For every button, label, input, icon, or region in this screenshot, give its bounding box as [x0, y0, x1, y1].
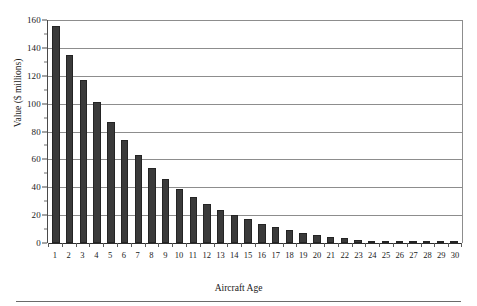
x-tick-mark	[421, 243, 435, 248]
bar-7	[135, 155, 142, 243]
x-tick-mark	[145, 243, 159, 248]
bar-4	[93, 102, 100, 243]
bar-slot	[63, 20, 77, 243]
x-tick-label: 20	[310, 249, 324, 263]
x-tick-mark	[158, 243, 172, 248]
x-axis-tick-labels: 1234567891011121314151617181920212223242…	[47, 249, 463, 263]
bar-slot	[131, 20, 145, 243]
bar-slot	[76, 20, 90, 243]
x-tick-mark	[352, 243, 366, 248]
x-tick-label: 11	[186, 249, 200, 263]
x-tick-label: 9	[158, 249, 172, 263]
bar-slot	[145, 20, 159, 243]
x-tick-label: 14	[227, 249, 241, 263]
bar-slot	[90, 20, 104, 243]
x-tick-label: 17	[269, 249, 283, 263]
x-tick-mark	[172, 243, 186, 248]
bar-slot	[104, 20, 118, 243]
x-tick-label: 6	[117, 249, 131, 263]
bar-9	[162, 179, 169, 243]
bar-slot	[159, 20, 173, 243]
x-tick-label: 29	[434, 249, 448, 263]
x-tick-mark	[200, 243, 214, 248]
bar-slot	[420, 20, 434, 243]
bar-series	[48, 20, 462, 243]
x-tick-mark	[214, 243, 228, 248]
x-tick-mark	[117, 243, 131, 248]
y-tick-label: 80	[32, 127, 41, 137]
bar-slot	[406, 20, 420, 243]
bar-12	[203, 204, 210, 243]
bar-14	[231, 215, 238, 243]
x-tick-mark	[269, 243, 283, 248]
bar-slot	[49, 20, 63, 243]
x-tick-label: 1	[48, 249, 62, 263]
bar-2	[66, 55, 73, 243]
x-tick-mark	[448, 243, 462, 248]
x-tick-mark	[365, 243, 379, 248]
x-tick-mark	[379, 243, 393, 248]
x-tick-label: 30	[448, 249, 462, 263]
x-tick-label: 15	[241, 249, 255, 263]
bar-slot	[392, 20, 406, 243]
bar-18	[286, 230, 293, 243]
bar-slot	[365, 20, 379, 243]
bar-slot	[241, 20, 255, 243]
y-tick-label: 120	[27, 71, 41, 81]
x-tick-mark	[76, 243, 90, 248]
bar-slot	[118, 20, 132, 243]
bar-8	[148, 168, 155, 243]
x-tick-mark	[227, 243, 241, 248]
bar-19	[299, 233, 306, 243]
x-tick-label: 23	[352, 249, 366, 263]
x-tick-mark	[283, 243, 297, 248]
bar-chart-figure: Value ($ millions) 020406080100120140160…	[0, 0, 477, 306]
bar-13	[217, 210, 224, 243]
x-tick-mark	[103, 243, 117, 248]
x-tick-mark	[131, 243, 145, 248]
bar-slot	[214, 20, 228, 243]
bar-20	[313, 235, 320, 243]
x-axis-title: Aircraft Age	[0, 283, 477, 293]
bar-slot	[324, 20, 338, 243]
x-tick-mark	[434, 243, 448, 248]
bar-slot	[173, 20, 187, 243]
bar-10	[176, 189, 183, 243]
bar-6	[121, 140, 128, 243]
x-tick-mark	[324, 243, 338, 248]
x-tick-mark	[62, 243, 76, 248]
bar-slot	[310, 20, 324, 243]
y-tick-label: 20	[32, 210, 41, 220]
x-tick-mark	[241, 243, 255, 248]
bar-slot	[282, 20, 296, 243]
x-tick-label: 4	[89, 249, 103, 263]
x-tick-label: 7	[131, 249, 145, 263]
x-tick-mark	[186, 243, 200, 248]
y-tick-label: 60	[32, 154, 41, 164]
x-tick-label: 28	[421, 249, 435, 263]
y-tick-label: 100	[27, 99, 41, 109]
bar-slot	[434, 20, 448, 243]
bar-5	[107, 122, 114, 243]
x-tick-label: 13	[214, 249, 228, 263]
x-tick-mark	[89, 243, 103, 248]
y-tick-label: 160	[27, 15, 41, 25]
x-tick-mark	[296, 243, 310, 248]
x-tick-label: 2	[62, 249, 76, 263]
bar-1	[52, 26, 59, 243]
x-tick-label: 8	[145, 249, 159, 263]
y-tick-label: 40	[32, 182, 41, 192]
bar-slot	[296, 20, 310, 243]
bar-slot	[200, 20, 214, 243]
x-tick-label: 27	[407, 249, 421, 263]
x-tick-label: 12	[200, 249, 214, 263]
x-tick-mark	[255, 243, 269, 248]
bar-slot	[379, 20, 393, 243]
bar-slot	[337, 20, 351, 243]
x-tick-label: 22	[338, 249, 352, 263]
bar-slot	[228, 20, 242, 243]
bar-slot	[351, 20, 365, 243]
x-tick-label: 10	[172, 249, 186, 263]
bar-11	[190, 197, 197, 243]
x-tick-mark	[407, 243, 421, 248]
